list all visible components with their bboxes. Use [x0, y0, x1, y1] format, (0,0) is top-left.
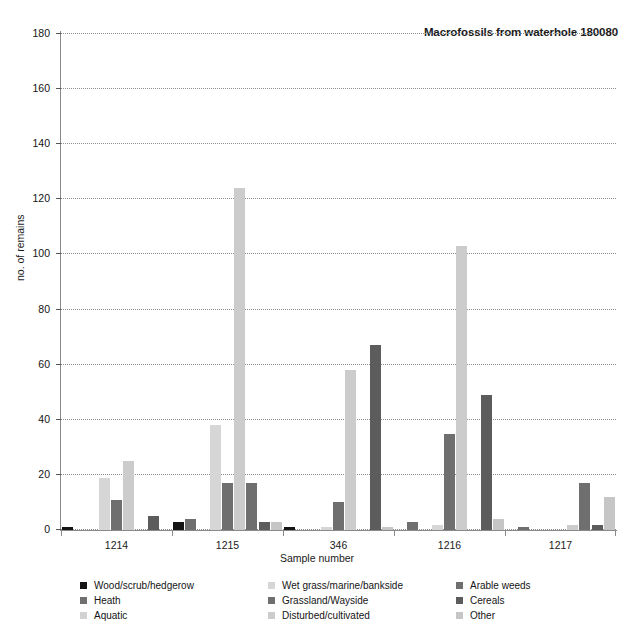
- bar-group: [61, 33, 172, 530]
- legend-column: Wood/scrub/hedgerowHeathAquatic: [80, 578, 268, 623]
- bar: [222, 483, 233, 530]
- y-tick-label: 120: [16, 192, 50, 204]
- x-axis-title: Sample number: [0, 552, 634, 564]
- legend-swatch-icon: [456, 597, 463, 604]
- legend-item-label: Wood/scrub/hedgerow: [94, 580, 194, 591]
- bar: [407, 522, 418, 530]
- bar: [111, 500, 122, 530]
- bar: [579, 483, 590, 530]
- legend-item-label: Disturbed/cultivated: [282, 610, 370, 621]
- y-tick-label: 60: [16, 358, 50, 370]
- category-label-text: 1214: [105, 539, 128, 551]
- bar: [481, 395, 492, 530]
- y-tick-label: 20: [16, 468, 50, 480]
- legend-item[interactable]: Arable weeds: [456, 578, 580, 593]
- legend-item[interactable]: Disturbed/cultivated: [268, 608, 456, 623]
- legend-item-label: Wet grass/marine/bankside: [282, 580, 403, 591]
- bar: [493, 519, 504, 530]
- legend-item[interactable]: Other: [456, 608, 580, 623]
- category-label-text: 1217: [549, 539, 572, 551]
- bar: [123, 461, 134, 530]
- legend-item[interactable]: Heath: [80, 593, 268, 608]
- category-tick: [505, 530, 506, 536]
- legend-swatch-icon: [268, 612, 275, 619]
- macrofossils-bar-chart-figure: Macrofossils from waterhole 180080 no. o…: [0, 0, 634, 644]
- legend-column: Wet grass/marine/banksideGrassland/Waysi…: [268, 578, 456, 623]
- bar: [604, 497, 615, 530]
- bar: [173, 522, 184, 530]
- bar-group: [505, 33, 616, 530]
- bar-group: [172, 33, 283, 530]
- legend-swatch-icon: [80, 582, 87, 589]
- y-tick-label: 0: [16, 523, 50, 535]
- legend-swatch-icon: [456, 582, 463, 589]
- legend-swatch-icon: [268, 597, 275, 604]
- plot-wrapper: no. of remains 020406080100120140160180 …: [0, 0, 634, 560]
- legend-column: Arable weedsCerealsOther: [456, 578, 580, 623]
- legend-swatch-icon: [456, 612, 463, 619]
- legend-item-label: Aquatic: [94, 610, 127, 621]
- bar-group: [283, 33, 394, 530]
- category-tick: [283, 530, 284, 536]
- bar: [271, 522, 282, 530]
- bar-group: [394, 33, 505, 530]
- bar: [210, 425, 221, 530]
- bar: [259, 522, 270, 530]
- bar: [370, 345, 381, 530]
- bar: [333, 502, 344, 530]
- category-tick: [394, 530, 395, 536]
- legend-item-label: Heath: [94, 595, 121, 606]
- category-tick: [615, 530, 616, 536]
- legend-item[interactable]: Wood/scrub/hedgerow: [80, 578, 268, 593]
- legend-item-label: Arable weeds: [470, 580, 531, 591]
- category-label-text: 1215: [216, 539, 239, 551]
- bar: [185, 519, 196, 530]
- bar: [148, 516, 159, 530]
- legend-swatch-icon: [80, 597, 87, 604]
- legend-item[interactable]: Cereals: [456, 593, 580, 608]
- category-tick: [61, 530, 62, 536]
- y-tick-label: 100: [16, 247, 50, 259]
- legend-swatch-icon: [80, 612, 87, 619]
- legend-item[interactable]: Grassland/Wayside: [268, 593, 456, 608]
- bar: [246, 483, 257, 530]
- chart-legend: Wood/scrub/hedgerowHeathAquaticWet grass…: [80, 578, 580, 623]
- y-tick-label: 40: [16, 413, 50, 425]
- bar: [444, 434, 455, 530]
- bar: [456, 246, 467, 530]
- category-label-text: 346: [330, 539, 348, 551]
- y-tick-label: 180: [16, 27, 50, 39]
- y-tick-label: 140: [16, 137, 50, 149]
- legend-swatch-icon: [268, 582, 275, 589]
- bar: [99, 478, 110, 530]
- legend-item[interactable]: Aquatic: [80, 608, 268, 623]
- legend-item-label: Cereals: [470, 595, 504, 606]
- bar: [345, 370, 356, 530]
- category-tick: [172, 530, 173, 536]
- y-tick-label: 80: [16, 303, 50, 315]
- legend-item-label: Grassland/Wayside: [282, 595, 368, 606]
- y-tick-label: 160: [16, 82, 50, 94]
- legend-item[interactable]: Wet grass/marine/bankside: [268, 578, 456, 593]
- category-label-text: 1216: [438, 539, 461, 551]
- bar: [234, 188, 245, 530]
- bar-groups: [61, 33, 616, 530]
- legend-item-label: Other: [470, 610, 495, 621]
